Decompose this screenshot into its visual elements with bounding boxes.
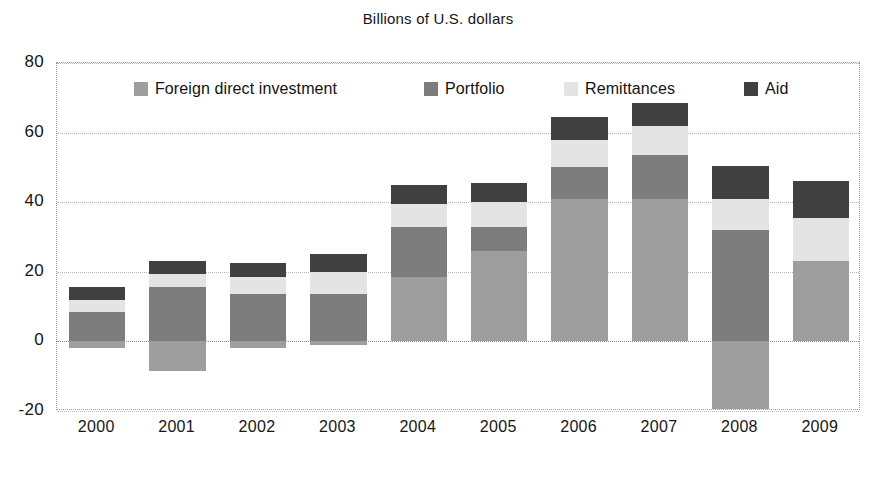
bar-group-2002[interactable] <box>230 63 286 409</box>
bars-layer <box>57 63 859 409</box>
bar-segment <box>69 312 125 342</box>
legend-item-portfolio[interactable]: Portfolio <box>424 80 505 98</box>
bar-segment <box>632 126 688 156</box>
plot-area <box>56 62 860 410</box>
bar-group-2008[interactable] <box>712 63 768 409</box>
gridline--20 <box>57 411 859 412</box>
legend-item-aid[interactable]: Aid <box>744 80 788 98</box>
bar-segment <box>551 167 607 198</box>
y-tick-label-80: 80 <box>24 52 44 72</box>
y-tick-label-60: 60 <box>24 122 44 142</box>
bar-segment <box>471 251 527 341</box>
legend-swatch-icon <box>134 82 148 96</box>
bar-segment <box>230 294 286 341</box>
bar-group-2003[interactable] <box>310 63 366 409</box>
bar-segment <box>793 218 849 262</box>
bar-segment <box>230 277 286 294</box>
bar-segment <box>793 181 849 218</box>
y-tick-label-0: 0 <box>34 330 44 350</box>
bar-segment <box>471 183 527 202</box>
legend-item-remittances[interactable]: Remittances <box>564 80 675 98</box>
bar-segment <box>551 117 607 140</box>
bar-segment <box>149 274 205 288</box>
x-tick-label-2000: 2000 <box>78 418 115 436</box>
x-axis: 2000200120022003200420052006200720082009 <box>56 414 860 448</box>
bar-segment <box>551 140 607 168</box>
y-tick-label--20: -20 <box>19 400 44 420</box>
bar-segment <box>149 287 205 341</box>
legend-swatch-icon <box>744 82 758 96</box>
bar-segment <box>69 341 125 348</box>
x-tick-label-2002: 2002 <box>239 418 276 436</box>
bar-segment <box>310 254 366 271</box>
bar-segment <box>712 166 768 199</box>
legend-item-label: Aid <box>765 80 788 98</box>
bar-segment <box>712 341 768 409</box>
y-axis: 806040200-20 <box>0 62 50 410</box>
bar-segment <box>391 204 447 227</box>
bar-segment <box>310 272 366 295</box>
bar-segment <box>69 300 125 312</box>
bar-segment <box>310 341 366 344</box>
bar-group-2006[interactable] <box>551 63 607 409</box>
bar-segment <box>632 155 688 199</box>
bar-segment <box>391 227 447 277</box>
bar-segment <box>149 261 205 273</box>
chart-title: Billions of U.S. dollars <box>0 10 876 27</box>
bar-segment <box>310 294 366 341</box>
x-tick-label-2007: 2007 <box>641 418 678 436</box>
bar-segment <box>230 263 286 277</box>
chart-figure: Billions of U.S. dollars 806040200-20 Fo… <box>0 0 876 479</box>
bar-group-2001[interactable] <box>149 63 205 409</box>
x-tick-label-2004: 2004 <box>399 418 436 436</box>
bar-segment <box>149 341 205 371</box>
bar-segment <box>632 199 688 342</box>
legend-swatch-icon <box>564 82 578 96</box>
bar-segment <box>230 341 286 348</box>
bar-group-2009[interactable] <box>793 63 849 409</box>
bar-group-2005[interactable] <box>471 63 527 409</box>
x-tick-label-2008: 2008 <box>721 418 758 436</box>
bar-group-2004[interactable] <box>391 63 447 409</box>
bar-segment <box>793 261 849 341</box>
x-tick-label-2003: 2003 <box>319 418 356 436</box>
bar-segment <box>391 185 447 204</box>
legend-item-label: Portfolio <box>445 80 505 98</box>
x-tick-label-2006: 2006 <box>560 418 597 436</box>
x-tick-label-2009: 2009 <box>801 418 838 436</box>
legend-item-label: Remittances <box>585 80 675 98</box>
x-tick-label-2005: 2005 <box>480 418 517 436</box>
bar-segment <box>391 277 447 341</box>
bar-segment <box>69 287 125 299</box>
x-tick-label-2001: 2001 <box>158 418 195 436</box>
legend-item-foreign-direct-investment[interactable]: Foreign direct investment <box>134 80 337 98</box>
bar-group-2007[interactable] <box>632 63 688 409</box>
bar-segment <box>471 227 527 251</box>
bar-segment <box>712 199 768 230</box>
bar-group-2000[interactable] <box>69 63 125 409</box>
bar-segment <box>551 199 607 342</box>
legend-item-label: Foreign direct investment <box>155 80 337 98</box>
legend-swatch-icon <box>424 82 438 96</box>
bar-segment <box>712 230 768 341</box>
bar-segment <box>632 103 688 126</box>
y-tick-label-20: 20 <box>24 261 44 281</box>
bar-segment <box>471 202 527 226</box>
y-tick-label-40: 40 <box>24 191 44 211</box>
chart-legend: Foreign direct investmentPortfolioRemitt… <box>56 80 860 106</box>
